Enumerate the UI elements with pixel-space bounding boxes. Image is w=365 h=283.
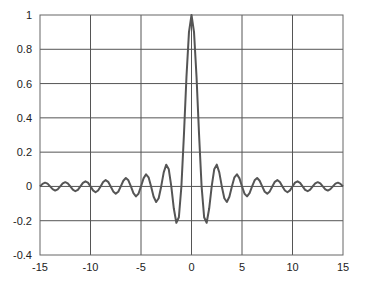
y-tick-label: 0 — [26, 180, 32, 192]
y-tick-label: 0.8 — [17, 43, 32, 55]
x-tick-label: -10 — [83, 261, 99, 273]
x-tick-label: 15 — [337, 261, 349, 273]
y-tick-label: 0.6 — [17, 78, 32, 90]
y-tick-label: 0.4 — [17, 112, 32, 124]
y-tick-label: 0.2 — [17, 146, 32, 158]
y-tick-label: -0.4 — [13, 249, 32, 261]
x-tick-label: 0 — [188, 261, 194, 273]
x-tick-label: -5 — [136, 261, 146, 273]
y-axis-tick-labels: -0.4-0.200.20.40.60.81 — [13, 9, 32, 261]
sinc-line-chart: -0.4-0.200.20.40.60.81 -15-10-5051015 — [0, 0, 365, 283]
grid-lines — [40, 15, 343, 255]
x-tick-label: 5 — [239, 261, 245, 273]
x-tick-label: -15 — [32, 261, 48, 273]
y-tick-label: -0.2 — [13, 215, 32, 227]
x-axis-tick-labels: -15-10-5051015 — [32, 261, 349, 273]
x-tick-label: 10 — [286, 261, 298, 273]
y-tick-label: 1 — [26, 9, 32, 21]
